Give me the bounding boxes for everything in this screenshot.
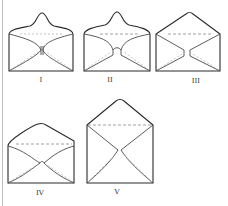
label-envelope-ii: II [100,76,120,84]
label-envelope-i: I [31,76,51,84]
envelope-i [9,13,73,71]
envelope-ii [84,12,150,71]
label-envelope-iii: III [186,77,206,85]
label-envelope-iv: IV [30,189,50,197]
envelope-diagram [0,0,228,206]
label-envelope-v: V [107,188,127,196]
envelope-iv [8,123,74,183]
envelope-v [87,100,153,184]
envelope-iii [156,13,220,72]
